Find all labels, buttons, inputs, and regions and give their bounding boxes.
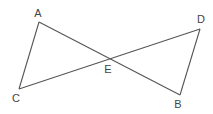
- label-a: A: [34, 7, 42, 19]
- label-d: D: [197, 13, 205, 25]
- label-c: C: [12, 92, 20, 104]
- label-b: B: [174, 98, 181, 110]
- geometry-diagram: A B C D E: [0, 0, 213, 114]
- segment-db: [180, 29, 200, 95]
- label-e: E: [104, 63, 111, 75]
- segment-ac: [19, 22, 39, 89]
- segment-cd: [19, 29, 200, 89]
